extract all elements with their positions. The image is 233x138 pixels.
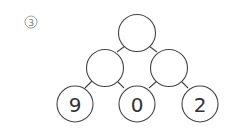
svg-text:0: 0 bbox=[131, 93, 144, 117]
middle-left-circle[interactable] bbox=[87, 50, 124, 87]
svg-text:3: 3 bbox=[28, 18, 34, 28]
bottom-middle-circle: 0 bbox=[119, 86, 155, 122]
problem-label: 3 bbox=[25, 16, 37, 28]
svg-text:9: 9 bbox=[69, 93, 82, 117]
bottom-right-circle: 2 bbox=[182, 86, 218, 122]
svg-text:2: 2 bbox=[194, 93, 207, 117]
middle-right-circle[interactable] bbox=[151, 50, 188, 87]
top-circle[interactable] bbox=[119, 15, 156, 52]
bottom-left-circle: 9 bbox=[57, 86, 93, 122]
number-pyramid: 3 9 0 2 bbox=[0, 0, 233, 138]
